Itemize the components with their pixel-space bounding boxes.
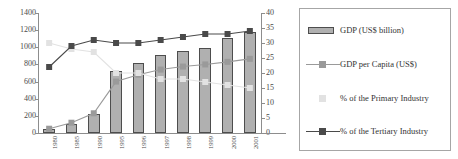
legend-marker-icon (319, 128, 326, 135)
legend-item-label: GDP per Capita (US$) (340, 59, 417, 69)
y-axis-right-tick (262, 28, 265, 29)
line-marker (158, 67, 164, 73)
x-axis-tick-label: 1998 (186, 136, 193, 149)
x-axis-tick-label: 1980 (52, 136, 59, 149)
line-marker (113, 40, 119, 46)
line-path (49, 59, 250, 129)
x-axis-tick-label: 1997 (164, 136, 171, 149)
legend-marker-icon (319, 61, 326, 68)
line-path (49, 43, 250, 88)
line-marker (202, 61, 208, 67)
x-axis-tick-label: 1985 (74, 136, 81, 149)
line-marker (225, 59, 231, 65)
legend-key-icon (306, 92, 340, 104)
x-axis-tick-label: 1995 (119, 136, 126, 149)
legend-item[interactable]: % of the Tertiary Industry (306, 124, 450, 138)
legend-item[interactable]: GDP (US$ billion) (306, 23, 450, 37)
x-axis-tick-label: 1999 (208, 136, 215, 149)
y-axis-left-tick (35, 47, 38, 48)
x-axis-tick-label: 2001 (253, 136, 260, 149)
y-axis-right-tick (262, 58, 265, 59)
chart-legend: GDP (US$ billion)GDP per Capita (US$)% o… (299, 8, 451, 151)
line-marker (247, 56, 253, 62)
line-marker (135, 40, 141, 46)
line-marker (113, 79, 119, 85)
legend-item[interactable]: GDP per Capita (US$) (306, 57, 450, 71)
legend-item[interactable]: % of the Primary Industry (306, 91, 450, 105)
line-marker (158, 37, 164, 43)
line-marker (68, 43, 74, 49)
plot-area: 0200400600800100012001400 05101520253035… (0, 0, 292, 159)
legend-key-icon (306, 58, 340, 70)
y-axis-right-tick (262, 13, 265, 14)
y-axis-right-tick (262, 118, 265, 119)
legend-item-label: % of the Primary Industry (340, 93, 429, 103)
y-axis-left-tick (35, 82, 38, 83)
line-marker (46, 64, 52, 70)
y-axis-left-tick (35, 133, 38, 134)
y-axis-right-tick (262, 103, 265, 104)
y-axis-left-tick (35, 13, 38, 14)
line-marker (68, 120, 74, 126)
x-axis-tick-label: 1996 (141, 136, 148, 149)
x-axis-tick-label: 2000 (231, 136, 238, 149)
line-marker (91, 49, 97, 55)
legend-item-label: % of the Tertiary Industry (340, 126, 428, 136)
line-marker (91, 110, 97, 116)
y-axis-right-tick (262, 133, 265, 134)
line-marker (202, 79, 208, 85)
line-marker (46, 40, 52, 46)
y-axis-right-tick (262, 43, 265, 44)
y-axis-right-tick (262, 73, 265, 74)
y-axis-left-tick (35, 116, 38, 117)
legend-item-label: GDP (US$ billion) (340, 25, 404, 35)
line-marker (180, 64, 186, 70)
line-marker (158, 76, 164, 82)
line-marker (225, 82, 231, 88)
line-marker (225, 31, 231, 37)
line-marker (91, 37, 97, 43)
combo-chart: 0200400600800100012001400 05101520253035… (0, 0, 458, 159)
line-marker (113, 70, 119, 76)
line-marker (180, 34, 186, 40)
line-marker (247, 28, 253, 34)
line-path (49, 31, 250, 67)
y-axis-left-tick (35, 64, 38, 65)
legend-key-icon (306, 125, 340, 137)
y-axis-left-tick (35, 99, 38, 100)
legend-marker-icon (319, 95, 326, 102)
line-marker (46, 126, 52, 132)
y-axis-right-tick (262, 88, 265, 89)
legend-swatch-icon (308, 27, 334, 34)
line-marker (180, 76, 186, 82)
legend-key-icon (306, 24, 340, 36)
line-marker (247, 85, 253, 91)
x-axis-tick-label: 1990 (97, 136, 104, 149)
line-marker (135, 70, 141, 76)
y-axis-left-tick (35, 30, 38, 31)
line-marker (202, 31, 208, 37)
